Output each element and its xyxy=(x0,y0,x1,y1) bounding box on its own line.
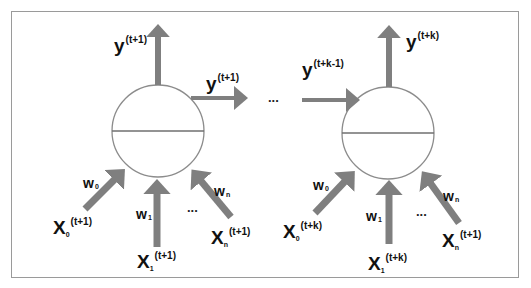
label-right-y-up: y(t+k) xyxy=(406,32,439,51)
label-right-xn: Xn(t+1) xyxy=(442,231,481,250)
ellipsis-right-inputs: ... xyxy=(416,204,427,219)
label-right-w1: w1 xyxy=(366,209,382,223)
label-right-wn: wn xyxy=(443,189,459,203)
label-right-w0: w0 xyxy=(313,178,329,192)
ellipsis-between: ... xyxy=(268,90,279,105)
label-left-x1: X1(t+1) xyxy=(137,252,176,271)
label-right-x1: X1(t+k) xyxy=(368,254,407,273)
neuron-left xyxy=(85,30,240,247)
label-left-x0: X0(t+1) xyxy=(53,218,92,237)
label-right-x0: X0(t+k) xyxy=(283,222,322,241)
label-left-y-up: y(t+1) xyxy=(114,36,147,55)
label-left-w0: w0 xyxy=(83,176,99,190)
label-left-xn: Xn(t+1) xyxy=(211,228,250,247)
label-left-y-right: y(t+1) xyxy=(206,74,239,93)
label-left-w1: w1 xyxy=(136,207,152,221)
ellipsis-left-inputs: ... xyxy=(187,200,198,215)
label-left-wn: wn xyxy=(214,184,230,198)
label-right-y-in: y(t+k-1) xyxy=(302,60,344,79)
